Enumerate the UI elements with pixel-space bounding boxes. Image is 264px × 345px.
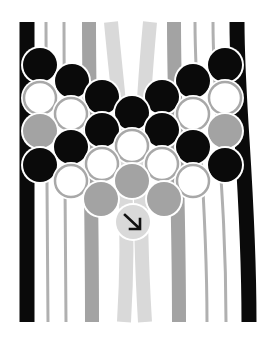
knots-layer — [21, 46, 244, 241]
bracelet-pattern-diagram — [0, 0, 264, 345]
knot-mid-gray — [145, 180, 183, 218]
knot-mid-gray — [82, 180, 120, 218]
knot-light-gray-arrow — [114, 203, 152, 241]
knot-diagram-canvas — [0, 0, 264, 345]
